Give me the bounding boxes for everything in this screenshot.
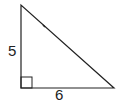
triangle-diagram: 5 6: [0, 0, 119, 101]
horizontal-leg-label: 6: [55, 86, 63, 101]
vertical-leg-label: 5: [8, 42, 16, 59]
right-angle-marker: [21, 77, 32, 88]
triangle: [21, 5, 114, 88]
hypotenuse-tick: [43, 25, 45, 27]
